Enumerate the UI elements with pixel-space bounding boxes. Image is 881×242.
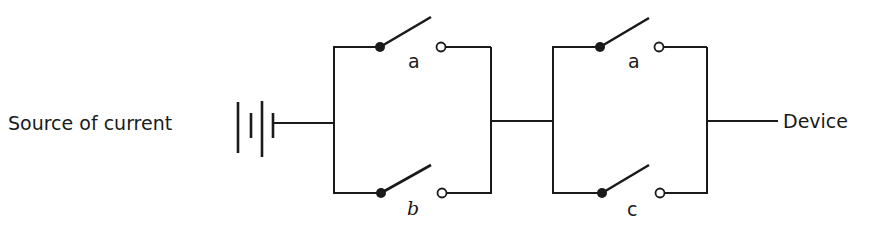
switch-pivot-icon <box>597 188 607 198</box>
switch-b[interactable]: b <box>376 165 447 219</box>
switch-contact-icon <box>655 43 664 52</box>
battery-icon <box>238 101 273 157</box>
switch-arm-icon <box>380 17 431 47</box>
switch-pivot-icon <box>375 42 385 52</box>
switch-a-1[interactable]: a <box>375 17 446 72</box>
switch-contact-icon <box>656 189 665 198</box>
device-label: Device <box>783 110 848 132</box>
switch-contact-icon <box>437 43 446 52</box>
switch-label: a <box>628 50 640 72</box>
switch-contact-icon <box>438 189 447 198</box>
parallel-block-2: a c <box>552 18 707 220</box>
switch-pivot-icon <box>595 42 605 52</box>
switch-label: a <box>408 50 420 72</box>
switch-label: c <box>627 198 637 220</box>
switch-pivot-icon <box>376 188 386 198</box>
switch-a-2[interactable]: a <box>595 18 664 72</box>
switch-label: b <box>407 197 419 219</box>
source-label: Source of current <box>8 112 172 134</box>
switch-arm-icon <box>600 18 649 47</box>
switch-c[interactable]: c <box>597 165 665 220</box>
switch-arm-icon <box>602 165 649 193</box>
circuit-diagram: Source of current a b <box>0 0 881 242</box>
parallel-block-1: a b <box>333 17 491 219</box>
switch-arm-icon <box>381 165 431 193</box>
